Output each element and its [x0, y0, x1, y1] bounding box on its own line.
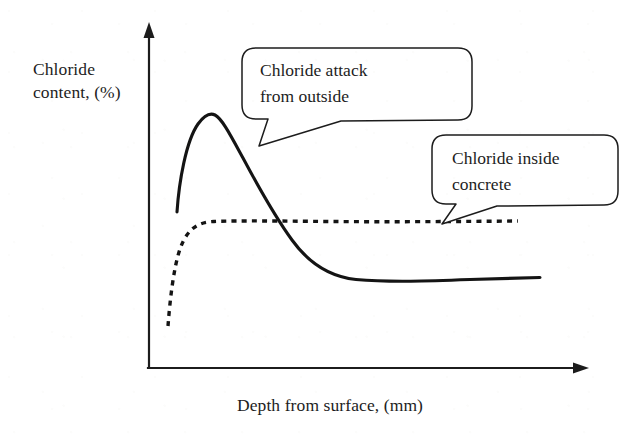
- series-chloride-inside-concrete: [168, 221, 518, 326]
- y-axis-label: Chloride content, (%): [33, 58, 145, 104]
- y-axis-arrow-icon: [144, 22, 155, 38]
- x-axis-arrow-icon: [573, 363, 589, 374]
- chart-figure: Chloride content, (%) Depth from surface…: [0, 0, 640, 434]
- callout-label-chloride-attack: Chloride attack from outside: [260, 57, 470, 109]
- callout-label-chloride-inside: Chloride inside concrete: [452, 145, 622, 197]
- x-axis-label: Depth from surface, (mm): [200, 394, 460, 417]
